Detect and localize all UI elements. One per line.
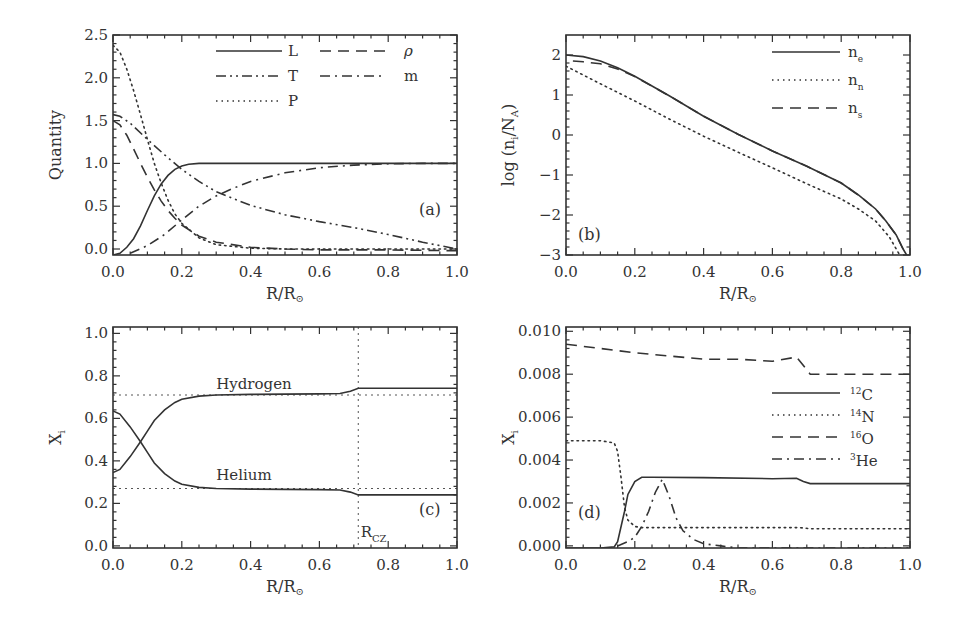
y-tick-label: 0.006 [518, 408, 561, 426]
y-tick-label: 0.000 [518, 537, 561, 555]
legend-label: T [288, 67, 298, 85]
legend-label: 12C [850, 386, 873, 404]
y-tick-label: −3 [539, 246, 561, 264]
y-tick-label: 0.004 [518, 451, 561, 469]
legend-label: ρ [403, 42, 413, 60]
x-tick-label: 0.4 [239, 556, 263, 574]
series- [113, 121, 457, 251]
y-tick-label: 2.0 [84, 69, 108, 87]
legend-label: L [288, 42, 298, 60]
x-tick-label: 0.0 [554, 556, 578, 574]
series-hydrogen [113, 388, 457, 472]
y-tick-label: 0.008 [518, 365, 561, 383]
plot-frame [113, 327, 457, 548]
x-tick-label: 0.6 [760, 263, 784, 281]
y-axis-label: Quantity [46, 110, 65, 180]
x-tick-label: 0.8 [829, 556, 853, 574]
chart-canvas: 0.00.20.40.60.81.00.00.51.01.52.02.5R/R⊙… [0, 0, 963, 628]
y-tick-label: −2 [539, 206, 561, 224]
y-tick-label: 0.002 [518, 494, 561, 512]
x-axis-label: R/R⊙ [266, 577, 304, 597]
x-tick-label: 0.0 [101, 263, 125, 281]
panel-a: 0.00.20.40.60.81.00.00.51.01.52.02.5R/R⊙… [46, 26, 469, 304]
legend-label: ns [848, 99, 863, 120]
y-tick-label: 2.5 [84, 26, 108, 44]
series-helium [113, 411, 457, 495]
panel-tag: (c) [419, 500, 440, 519]
x-axis-label: R/R⊙ [719, 577, 757, 597]
y-tick-label: 0.4 [84, 452, 108, 470]
y-tick-label: 2 [551, 46, 561, 64]
x-tick-label: 0.0 [554, 263, 578, 281]
x-tick-label: 0.6 [307, 556, 331, 574]
series-l [113, 163, 457, 255]
y-tick-label: 1.0 [84, 154, 108, 172]
x-tick-label: 0.2 [623, 556, 647, 574]
x-tick-label: 0.8 [376, 556, 400, 574]
x-tick-label: 0.2 [623, 263, 647, 281]
series-t [113, 115, 457, 249]
panel-b: 0.00.20.40.60.81.0−3−2−1012R/R⊙log (ni/N… [499, 35, 922, 304]
x-tick-label: 0.6 [760, 556, 784, 574]
y-axis-label: Xi [46, 430, 67, 445]
y-axis-label: Xi [499, 430, 520, 445]
y-tick-label: 0.8 [84, 367, 108, 385]
x-tick-label: 0.4 [692, 556, 716, 574]
x-tick-label: 0.6 [307, 263, 331, 281]
x-axis-label: R/R⊙ [266, 284, 304, 304]
series-3he [618, 479, 910, 548]
series-16o [566, 344, 910, 374]
y-tick-label: 0.0 [84, 240, 108, 258]
x-tick-label: 0.2 [170, 263, 194, 281]
x-tick-label: 0.4 [692, 263, 716, 281]
panel-tag: (a) [419, 200, 441, 219]
x-tick-label: 0.8 [829, 263, 853, 281]
x-tick-label: 1.0 [898, 556, 922, 574]
y-tick-label: 0.2 [84, 494, 108, 512]
legend-label: 14N [850, 408, 875, 426]
panel-d: 0.00.20.40.60.81.00.0000.0020.0040.0060.… [499, 322, 922, 597]
panel-c: 0.00.20.40.60.81.00.00.20.40.60.81.0R/R⊙… [46, 324, 469, 597]
y-tick-label: 1.0 [84, 324, 108, 342]
x-tick-label: 0.0 [101, 556, 125, 574]
y-tick-label: 0.6 [84, 409, 108, 427]
y-tick-label: 0.010 [518, 322, 561, 340]
annotation-helium: Helium [216, 466, 271, 484]
panel-tag: (d) [578, 503, 601, 522]
x-tick-label: 1.0 [445, 556, 469, 574]
figure: 0.00.20.40.60.81.00.00.51.01.52.02.5R/R⊙… [0, 0, 963, 628]
x-tick-label: 1.0 [898, 263, 922, 281]
panel-tag: (b) [578, 225, 601, 244]
y-tick-label: 0 [551, 126, 561, 144]
y-axis-label: log (ni/NA) [499, 104, 520, 187]
x-tick-label: 0.2 [170, 556, 194, 574]
annotation-hydrogen: Hydrogen [216, 375, 292, 393]
series-12c [566, 477, 910, 548]
legend-label: 3He [850, 452, 878, 470]
legend-label: m [404, 67, 418, 85]
x-axis-label: R/R⊙ [719, 284, 757, 304]
legend-label: ne [848, 43, 863, 64]
x-tick-label: 0.4 [239, 263, 263, 281]
series-m [130, 163, 457, 253]
annotation-r: RCZ [361, 523, 387, 544]
y-tick-label: 0.5 [84, 197, 108, 215]
y-tick-label: −1 [539, 166, 561, 184]
series-nn [566, 66, 900, 255]
legend-label: 16O [850, 430, 874, 448]
legend-label: nn [848, 71, 864, 92]
x-tick-label: 0.8 [376, 263, 400, 281]
y-tick-label: 1 [551, 86, 561, 104]
y-tick-label: 0.0 [84, 537, 108, 555]
y-tick-label: 1.5 [84, 112, 108, 130]
legend-label: P [288, 92, 298, 110]
series-ns [573, 61, 903, 249]
x-tick-label: 1.0 [445, 263, 469, 281]
